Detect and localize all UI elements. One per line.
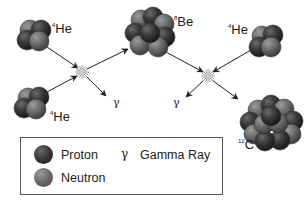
he4-top-right-label: 4He — [228, 22, 248, 37]
he4-bottom-left-label: 4He — [50, 109, 70, 124]
arrow-be8-to-collision-2 — [166, 52, 203, 72]
legend-proton-label: Proton — [61, 148, 98, 162]
arrow-collision-1-to-be8 — [87, 49, 128, 69]
beryllium-8-nucleus — [125, 7, 175, 57]
collision-star-icon-2 — [201, 69, 215, 83]
arrow-collision-2-to-c12 — [212, 80, 238, 99]
c12-label: 12C — [238, 137, 254, 152]
collision-star-icon-1 — [75, 65, 89, 79]
legend-gamma-symbol: γ — [121, 147, 128, 161]
gamma-ray-label-1: γ — [113, 96, 120, 109]
legend-neutron-label: Neutron — [61, 171, 105, 185]
arrow-he4-to-collision-1a — [47, 47, 78, 68]
arrow-he4-to-collision-1b — [47, 76, 77, 92]
arrow-collision-2-to-gamma — [186, 80, 204, 97]
be8-label: 8Be — [174, 14, 193, 29]
legend: Proton Neutron γ Gamma Ray — [20, 137, 223, 195]
gamma-ray-label-2: γ — [173, 96, 180, 109]
helium-4-nucleus-top-left — [17, 20, 51, 51]
neutron-swatch-icon — [34, 168, 53, 187]
helium-4-nucleus-bottom-left — [14, 87, 49, 119]
arrow-collision-1-to-gamma — [86, 76, 106, 96]
arrow-he4-to-collision-2 — [213, 50, 251, 72]
proton-swatch-icon — [34, 145, 53, 164]
helium-4-nucleus-top-right — [249, 25, 283, 57]
legend-gamma-label: Gamma Ray — [140, 148, 210, 162]
he4-top-left-label: 4He — [52, 21, 72, 36]
